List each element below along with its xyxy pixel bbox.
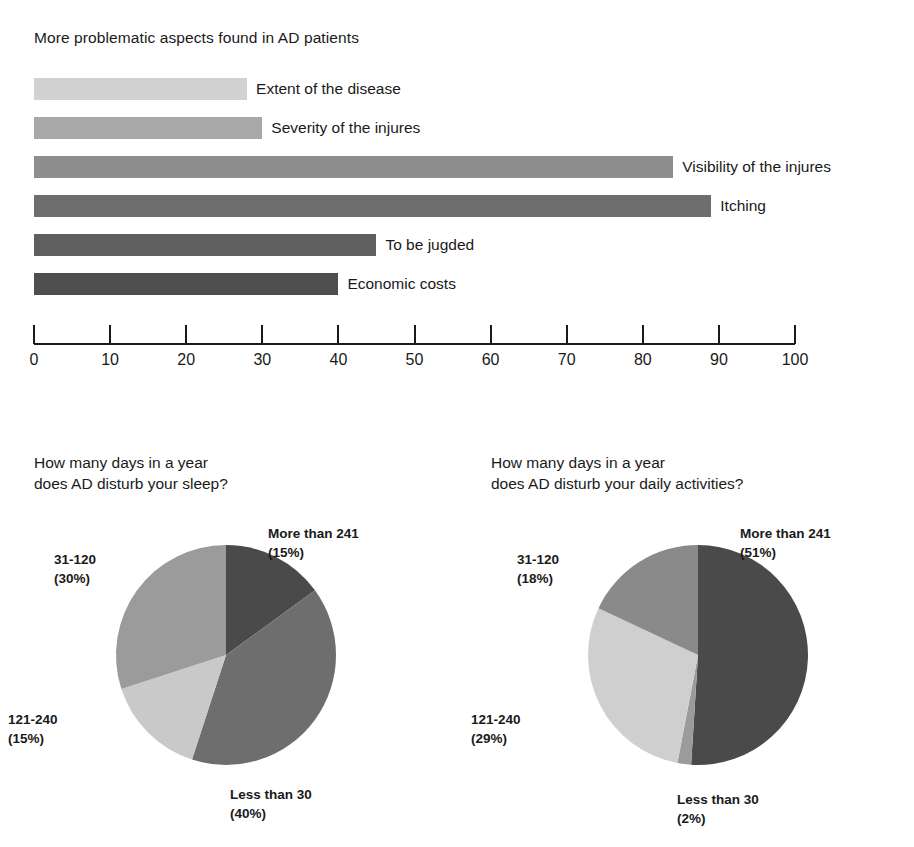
axis-tick-label: 70	[558, 351, 576, 369]
axis-tick	[414, 325, 416, 344]
bar-row: Economic costs	[34, 273, 456, 295]
pie-sleep-slice-group	[116, 545, 336, 765]
axis-tick-label: 10	[101, 351, 119, 369]
pie-chart-activities-panel: How many days in a year does AD disturb …	[457, 440, 914, 847]
axis-tick	[794, 325, 796, 344]
bar-row: Extent of the disease	[34, 78, 401, 100]
pie-sleep-callout-less-than-30: Less than 30 (40%)	[230, 785, 312, 823]
bar-rect	[34, 156, 673, 178]
axis-tick-label: 60	[482, 351, 500, 369]
axis-tick-label: 40	[329, 351, 347, 369]
pie-sleep-callout-121-240: 121-240 (15%)	[8, 710, 58, 748]
bar-row: Itching	[34, 195, 766, 217]
bar-category-label: Extent of the disease	[256, 78, 401, 100]
pie-activities-callout-31-120: 31-120 (18%)	[517, 550, 559, 588]
axis-tick	[185, 325, 187, 344]
pie-sleep-graphic	[0, 440, 457, 847]
pie-activities-slice	[691, 545, 808, 765]
pie-sleep-callout-more-than-241: More than 241 (15%)	[268, 524, 359, 562]
axis-tick	[566, 325, 568, 344]
axis-tick-label: 50	[406, 351, 424, 369]
pie-activities-callout-121-240: 121-240 (29%)	[471, 710, 521, 748]
bar-chart-title: More problematic aspects found in AD pat…	[34, 29, 359, 47]
axis-tick	[109, 325, 111, 344]
bar-row: Severity of the injures	[34, 117, 420, 139]
bar-chart-x-axis: 0102030405060708090100	[0, 322, 914, 392]
bar-chart-panel: More problematic aspects found in AD pat…	[0, 0, 914, 395]
axis-tick-label: 0	[30, 351, 39, 369]
bar-category-label: Severity of the injures	[271, 117, 420, 139]
bar-category-label: To be jugded	[385, 234, 474, 256]
bar-rect	[34, 273, 338, 295]
axis-tick	[718, 325, 720, 344]
bar-row: To be jugded	[34, 234, 474, 256]
pie-sleep-svg	[0, 440, 457, 847]
pie-activities-svg	[457, 440, 914, 847]
axis-tick	[490, 325, 492, 344]
axis-tick	[33, 325, 35, 344]
pie-chart-sleep-panel: How many days in a year does AD disturb …	[0, 440, 457, 847]
axis-tick	[261, 325, 263, 344]
axis-tick-label: 90	[710, 351, 728, 369]
axis-tick-label: 30	[253, 351, 271, 369]
bar-row: Visibility of the injures	[34, 156, 831, 178]
bar-rect	[34, 195, 711, 217]
pie-activities-callout-more-than-241: More than 241 (51%)	[740, 524, 831, 562]
pie-sleep-callout-31-120: 31-120 (30%)	[54, 550, 96, 588]
pie-activities-slice-group	[588, 545, 808, 765]
bar-category-label: Economic costs	[347, 273, 456, 295]
axis-tick-label: 80	[634, 351, 652, 369]
axis-tick	[642, 325, 644, 344]
axis-tick-label: 20	[177, 351, 195, 369]
pie-activities-callout-less-than-30: Less than 30 (2%)	[677, 790, 759, 828]
bar-category-label: Itching	[720, 195, 766, 217]
axis-tick	[337, 325, 339, 344]
bar-rect	[34, 234, 376, 256]
bar-rect	[34, 78, 247, 100]
pie-activities-graphic	[457, 440, 914, 847]
bar-rect	[34, 117, 262, 139]
axis-tick-label: 100	[782, 351, 809, 369]
bar-category-label: Visibility of the injures	[682, 156, 831, 178]
